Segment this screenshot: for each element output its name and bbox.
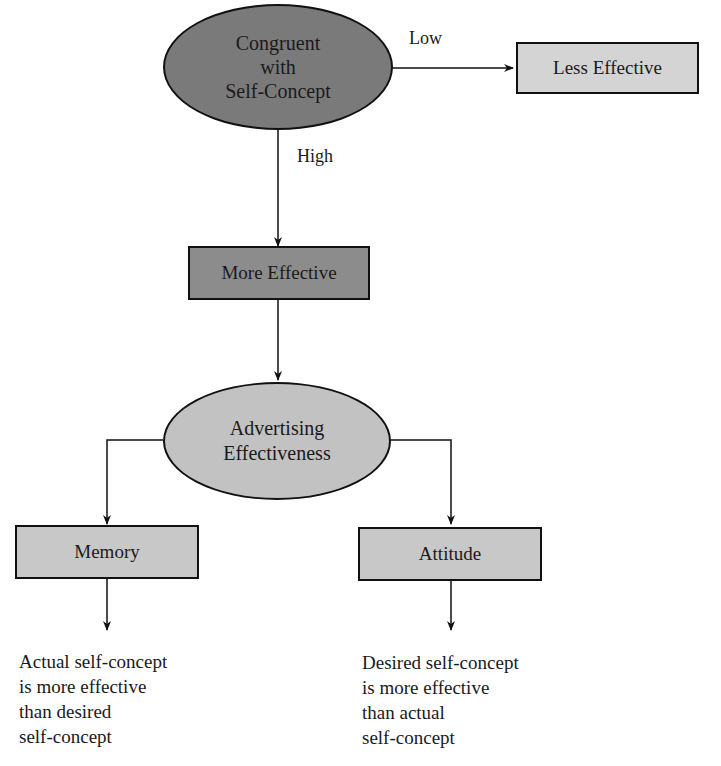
node-label: More Effective [221, 262, 336, 284]
outcome-line: is more effective [19, 674, 167, 699]
memory-node: Memory [15, 525, 199, 579]
outcome-line: than actual [362, 700, 519, 725]
node-label: Memory [74, 541, 139, 563]
edge-label-low: Low [409, 28, 442, 49]
more-effective-node: More Effective [188, 246, 370, 300]
node-label-line: Self-Concept [225, 79, 331, 103]
outcome-line: Actual self-concept [19, 649, 167, 674]
less-effective-node: Less Effective [516, 42, 699, 94]
attitude-outcome-text: Desired self-concept is more effective t… [362, 650, 519, 750]
outcome-line: self-concept [19, 724, 167, 749]
outcome-line: than desired [19, 699, 167, 724]
outcome-line: is more effective [362, 675, 519, 700]
attitude-node: Attitude [358, 527, 542, 581]
outcome-line: Desired self-concept [362, 650, 519, 675]
memory-outcome-text: Actual self-concept is more effective th… [19, 649, 167, 749]
edge-label-high: High [297, 146, 333, 167]
congruent-with-self-concept-node: Congruent with Self-Concept [163, 4, 393, 130]
node-label-line: Advertising [230, 416, 324, 441]
node-label-line: Congruent [236, 31, 320, 55]
node-label: Less Effective [553, 57, 662, 79]
outcome-line: self-concept [362, 725, 519, 750]
node-label-line: with [260, 55, 296, 79]
advertising-effectiveness-node: Advertising Effectiveness [163, 382, 391, 500]
node-label-line: Effectiveness [223, 441, 330, 466]
node-label: Attitude [419, 543, 481, 565]
